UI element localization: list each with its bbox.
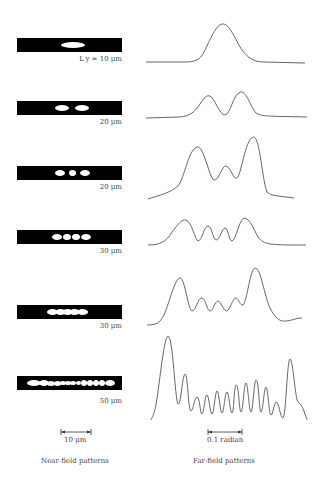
far-field-scale-bar bbox=[207, 429, 243, 435]
near-field-strip-6 bbox=[17, 376, 122, 390]
near-field-strip-1 bbox=[17, 38, 122, 52]
near-field-spot bbox=[80, 170, 90, 176]
row-label-3: 20 μm bbox=[100, 183, 122, 191]
near-field-spot bbox=[52, 234, 62, 240]
row-label-5: 30 μm bbox=[100, 322, 122, 330]
far-field-curves bbox=[140, 0, 329, 420]
far-field-caption: Far-field patterns bbox=[193, 457, 255, 465]
near-field-strip-5 bbox=[17, 305, 122, 319]
near-field-strip-2 bbox=[17, 101, 122, 115]
near-field-spot bbox=[69, 170, 76, 176]
near-field-spot bbox=[61, 42, 85, 48]
near-field-strip-4 bbox=[17, 230, 122, 244]
near-field-scale-label: 10 μm bbox=[64, 436, 86, 444]
near-field-spot bbox=[75, 105, 89, 111]
far-field-curve-2 bbox=[146, 92, 307, 118]
near-field-scale-bar bbox=[60, 429, 92, 435]
near-field-spot bbox=[55, 170, 65, 176]
row-label-6: 50 μm bbox=[100, 397, 122, 405]
far-field-curve-1 bbox=[146, 24, 305, 63]
row-label-1: L y = 10 μm bbox=[79, 55, 122, 63]
far-field-scale-label: 0.1 radian bbox=[207, 436, 243, 444]
far-field-curve-4 bbox=[148, 218, 306, 245]
row-label-4: 30 μm bbox=[100, 247, 122, 255]
near-field-spot bbox=[81, 234, 91, 240]
near-field-spot bbox=[63, 234, 71, 240]
near-field-spot bbox=[105, 380, 115, 386]
near-field-spot bbox=[77, 309, 88, 315]
near-field-spot bbox=[55, 105, 69, 111]
far-field-curve-5 bbox=[147, 268, 302, 325]
near-field-spot bbox=[72, 234, 80, 240]
far-field-curve-6 bbox=[146, 336, 310, 420]
row-label-2: 20 μm bbox=[100, 118, 122, 126]
near-field-strip-3 bbox=[17, 166, 122, 180]
far-field-curve-3 bbox=[148, 137, 294, 199]
near-field-caption: Near-field patterns bbox=[41, 457, 109, 465]
